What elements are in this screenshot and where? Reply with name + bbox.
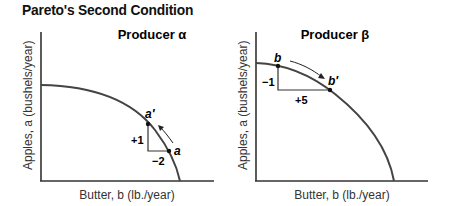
point-label: a′ <box>145 107 156 121</box>
horizontal-change-label: −2 <box>152 155 165 167</box>
vertical-change-label: −1 <box>262 76 275 88</box>
vertical-change-label: +1 <box>131 134 144 146</box>
horizontal-change-label: +5 <box>295 94 308 106</box>
arrow-head-icon <box>318 73 325 79</box>
panel-title: Producer β <box>301 27 370 42</box>
panel-producer-alpha: Producer α Apples, a (bushels/year) Butt… <box>21 27 214 202</box>
diagram-canvas: Producer α Apples, a (bushels/year) Butt… <box>0 0 450 206</box>
x-axis-label: Butter, b (lb./year) <box>294 188 389 202</box>
production-possibility-curve <box>256 63 394 181</box>
x-axis-label: Butter, b (lb./year) <box>79 188 174 202</box>
y-axis-label: Apples, a (bushels/year) <box>236 41 250 170</box>
point-a <box>167 149 171 153</box>
panel-title: Producer α <box>118 27 187 42</box>
point-label: b′ <box>328 74 339 88</box>
point-label: a <box>174 144 181 158</box>
point-b-prime <box>328 88 332 92</box>
point-label: b <box>274 51 281 65</box>
y-axis-label: Apples, a (bushels/year) <box>21 41 35 170</box>
point-a-prime <box>146 122 150 126</box>
panel-producer-beta: Producer β Apples, a (bushels/year) Butt… <box>236 27 428 202</box>
